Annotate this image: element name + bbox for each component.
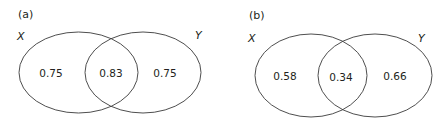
panel-label: (a) xyxy=(18,9,33,20)
intersection-value: 0.34 xyxy=(329,72,352,83)
panel-label: (b) xyxy=(249,10,265,21)
left-only-value: 0.75 xyxy=(39,68,62,79)
right-only-value: 0.66 xyxy=(383,71,406,82)
venn-panel-b: (b) X Y 0.58 0.34 0.66 xyxy=(222,0,444,120)
right-only-value: 0.75 xyxy=(153,68,176,79)
venn-panel-a: (a) X Y 0.75 0.83 0.75 xyxy=(0,0,222,120)
left-only-value: 0.58 xyxy=(273,71,296,82)
set-y-label: Y xyxy=(195,30,202,41)
set-y-label: Y xyxy=(418,33,425,44)
set-x-label: X xyxy=(17,31,25,42)
intersection-value: 0.83 xyxy=(99,68,122,79)
set-x-label: X xyxy=(248,33,256,44)
